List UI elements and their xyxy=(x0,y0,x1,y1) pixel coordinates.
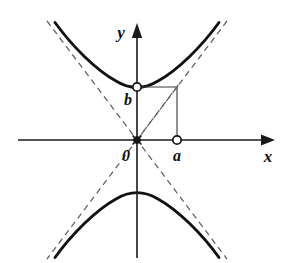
origin-label: 0 xyxy=(122,147,130,164)
point-b-label: b xyxy=(124,91,132,108)
labels-group: y x b a 0 xyxy=(115,23,273,166)
origin-marker-icon xyxy=(133,136,142,145)
arrow-up-icon xyxy=(132,23,142,38)
hyperbola-figure: y x b a 0 xyxy=(0,0,291,263)
hyperbola-diagram-canvas: y x b a 0 xyxy=(0,0,291,263)
x-axis-label: x xyxy=(263,147,273,166)
point-b-marker-icon xyxy=(133,83,141,91)
y-axis-label: y xyxy=(115,23,125,42)
point-a-label: a xyxy=(173,147,181,164)
axes-group xyxy=(18,23,275,258)
point-a-marker-icon xyxy=(173,136,181,144)
arrow-right-icon xyxy=(261,135,275,146)
